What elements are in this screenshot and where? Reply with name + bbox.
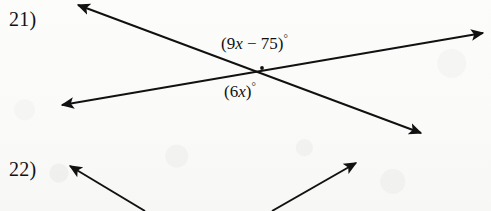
problem-22-right-ray (272, 163, 356, 211)
problem-22-figure (0, 0, 491, 211)
problem-22-left-ray (70, 166, 145, 211)
worksheet-page: 21) (9x − 75)° (6x)° 22) (0, 0, 491, 211)
